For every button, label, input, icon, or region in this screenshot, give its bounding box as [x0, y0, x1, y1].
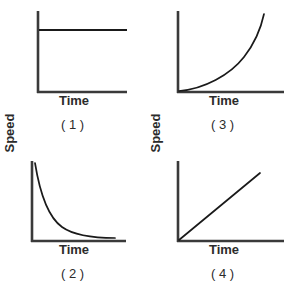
x-axis-label-4: Time	[180, 242, 268, 258]
panel-caption-1: ( 1 )	[0, 116, 145, 134]
x-axis-label-2: Time	[30, 242, 118, 258]
x-axis-label-1: Time	[30, 93, 118, 109]
curve-exponential-decay	[35, 163, 115, 238]
plot-area-1	[0, 0, 145, 108]
curve-exponential-growth	[179, 14, 264, 91]
y-axis-label-4: Speed	[148, 99, 164, 167]
graph-panel-3: Speed Time ( 3 )	[146, 0, 291, 149]
panel-caption-3: ( 3 )	[150, 116, 291, 134]
curve-linear-increase	[179, 173, 260, 240]
figure-sheet: Speed Time ( 1 ) Speed Time ( 3 ) Speed …	[0, 0, 291, 298]
y-axis-label-2: Speed	[2, 99, 18, 167]
panel-caption-4: ( 4 )	[150, 265, 291, 283]
graph-panel-4: Speed Time ( 4 )	[146, 149, 291, 298]
plot-area-2	[0, 149, 145, 257]
plot-area-4	[146, 149, 291, 257]
x-axis-label-3: Time	[180, 93, 268, 109]
y-axis-label-1: Speed	[2, 0, 18, 14]
plot-area-3	[146, 0, 291, 108]
y-axis-label-3: Speed	[148, 0, 164, 14]
graph-panel-2: Speed Time ( 2 )	[0, 149, 145, 298]
graph-panel-1: Speed Time ( 1 )	[0, 0, 145, 149]
panel-caption-2: ( 2 )	[0, 265, 145, 283]
